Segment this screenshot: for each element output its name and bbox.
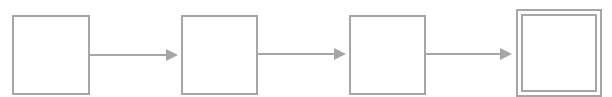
edges-layer [0, 0, 612, 97]
arrow-3-to-4 [426, 48, 512, 60]
arrow-1-to-2 [90, 49, 178, 61]
arrow-2-to-3 [258, 48, 346, 60]
